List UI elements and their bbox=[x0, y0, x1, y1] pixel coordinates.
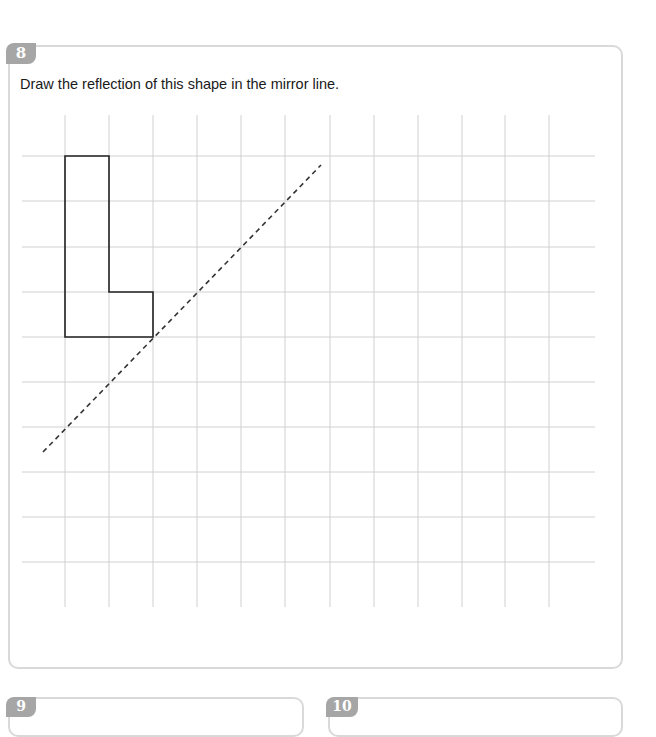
grid-lines bbox=[22, 115, 595, 607]
question-number-badge-10: 10 bbox=[326, 697, 358, 717]
next-question-card-9 bbox=[8, 697, 304, 737]
question-number-badge-9: 9 bbox=[6, 697, 36, 717]
mirror-line bbox=[43, 165, 321, 452]
next-question-card-10 bbox=[328, 697, 623, 737]
